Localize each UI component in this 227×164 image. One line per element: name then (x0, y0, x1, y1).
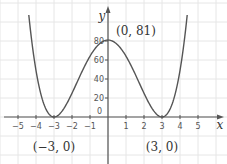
y-tick-label: 80 (94, 37, 104, 46)
point-annotation: (0, 81) (116, 24, 156, 38)
x-tick-label: −1 (84, 122, 96, 131)
labels: xy(0, 81)(−3, 0)(3, 0) (33, 9, 224, 154)
x-tick-label: 5 (195, 122, 200, 131)
x-tick-label: −4 (30, 122, 42, 131)
x-tick-label: −5 (12, 122, 24, 131)
point-annotation: (−3, 0) (33, 140, 75, 154)
y-tick-label: 40 (94, 75, 104, 84)
x-tick-label: 3 (159, 122, 164, 131)
y-axis-arrow-icon (106, 6, 111, 13)
function-graph: −5−4−3−2−112345204060800 xy(0, 81)(−3, 0… (0, 0, 227, 164)
point-annotation: (3, 0) (146, 140, 178, 154)
x-tick-label: −3 (48, 122, 60, 131)
x-tick-label: 4 (177, 122, 182, 131)
origin-label: 0 (97, 107, 102, 116)
x-tick-label: 2 (141, 122, 146, 131)
x-axis-label: x (217, 118, 224, 132)
y-tick-label: 60 (94, 56, 104, 65)
x-tick-label: 1 (123, 122, 128, 131)
x-tick-label: −2 (66, 122, 78, 131)
y-tick-label: 20 (94, 94, 104, 103)
y-axis-label: y (98, 9, 106, 23)
